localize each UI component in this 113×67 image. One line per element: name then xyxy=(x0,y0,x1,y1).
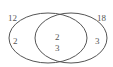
intersection-value-top: 2 xyxy=(55,32,60,42)
set-b-label: 18 xyxy=(97,13,107,23)
intersection-value-bottom: 3 xyxy=(55,43,60,53)
set-a-label: 12 xyxy=(8,13,17,23)
set-a-ellipse xyxy=(9,13,87,63)
only-b-value: 3 xyxy=(95,36,100,46)
only-a-value: 2 xyxy=(13,36,18,46)
venn-diagram: 12 18 2 2 3 3 xyxy=(0,0,113,67)
